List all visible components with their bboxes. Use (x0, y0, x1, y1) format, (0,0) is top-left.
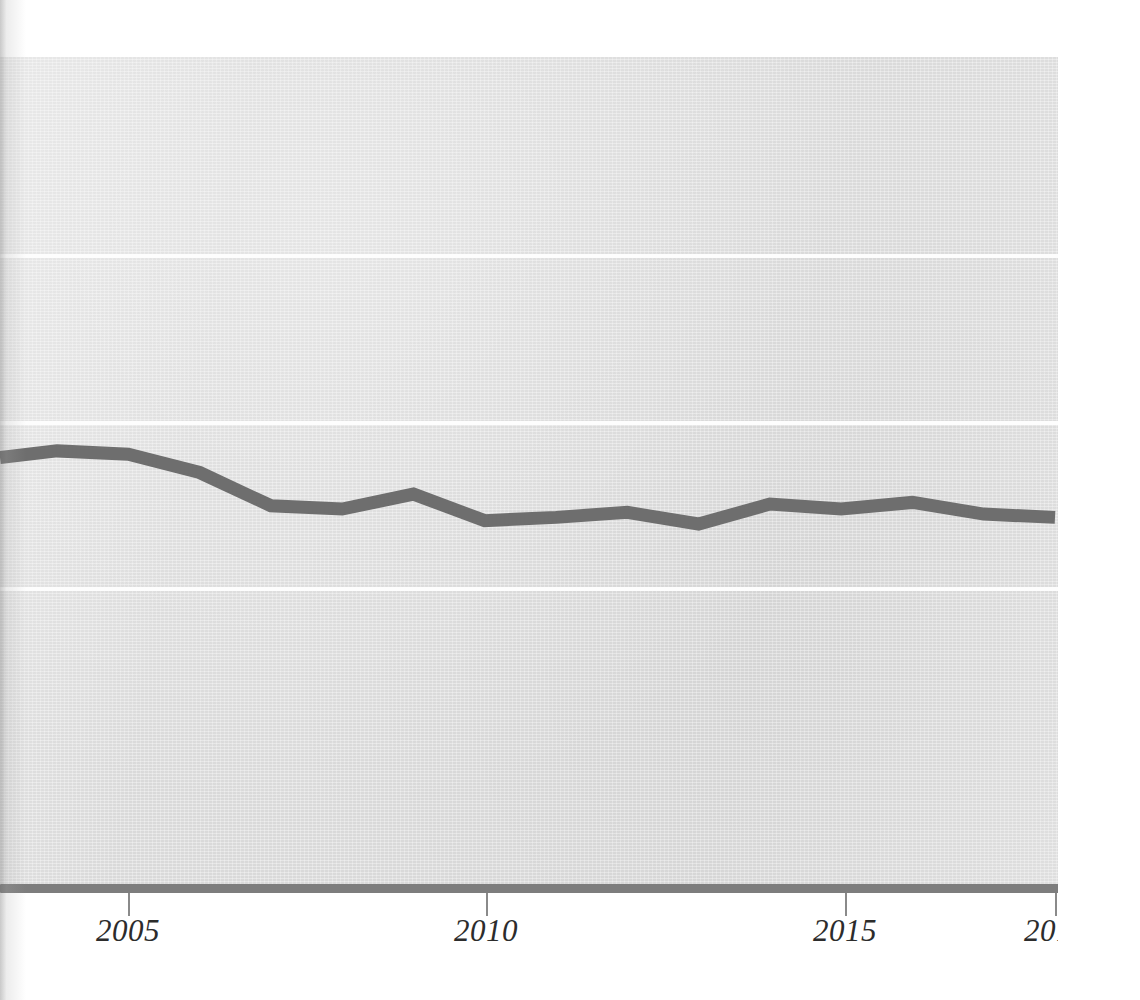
chart-figure: 2005 2010 2015 2018 (0, 0, 1140, 1000)
x-axis-label-2005: 2005 (96, 913, 160, 949)
page-top-margin (0, 0, 1140, 34)
data-series-layer (0, 57, 1058, 888)
line-series-1 (0, 451, 1055, 524)
page-right-margin (1058, 0, 1140, 1000)
x-axis-label-2010: 2010 (454, 913, 518, 949)
page-bottom-margin (0, 955, 1140, 1000)
plot-area (0, 57, 1058, 888)
x-axis-label-2018: 2018 (1024, 913, 1088, 949)
x-axis-label-2015: 2015 (813, 913, 877, 949)
x-axis-line (0, 884, 1059, 893)
